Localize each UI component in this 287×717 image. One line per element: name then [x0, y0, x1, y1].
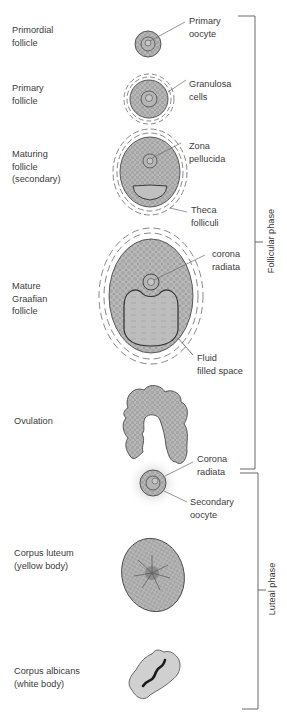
primordial-follicle-drawing — [135, 22, 185, 57]
corpus-albicans-drawing — [129, 650, 180, 699]
maturing-follicle-drawing — [113, 129, 187, 215]
luteal-bracket — [240, 473, 266, 709]
graafian-follicle-drawing — [99, 228, 205, 364]
primary-follicle-drawing — [124, 74, 186, 124]
follicular-bracket — [238, 16, 263, 469]
label-corona-radiata-released: Corona radiata — [197, 453, 227, 478]
label-granulosa-cells: Granulosa cells — [189, 78, 231, 103]
label-corpus-luteum: Corpus luteum (yellow body) — [14, 547, 74, 572]
label-corpus-albicans: Corpus albicans (white body) — [14, 665, 80, 690]
label-corona-radiata-mature: corona radiata — [212, 248, 240, 273]
label-follicular-phase: Follicular phase — [266, 206, 276, 276]
label-primary-follicle: Primary follicle — [12, 82, 44, 107]
label-maturing-follicle: Maturing follicle (secondary) — [12, 148, 61, 186]
ovulation-drawing — [123, 386, 187, 464]
label-luteal-phase: Luteal phase — [267, 559, 277, 619]
label-theca-folliculi: Theca folliculi — [191, 204, 219, 229]
label-secondary-oocyte: Secondary oocyte — [190, 496, 234, 521]
label-primordial-follicle: Primordial follicle — [12, 24, 53, 49]
label-primary-oocyte: Primary oocyte — [189, 15, 221, 40]
label-ovulation: Ovulation — [14, 415, 53, 428]
follicle-diagram — [0, 0, 287, 717]
label-fluid-filled-space: Fluid filled space — [197, 352, 243, 377]
released-oocyte-drawing — [127, 457, 193, 509]
label-mature-graafian-follicle: Mature Graafian follicle — [12, 280, 47, 318]
label-zona-pellucida: Zona pellucida — [189, 140, 225, 165]
corpus-luteum-drawing — [113, 531, 192, 619]
